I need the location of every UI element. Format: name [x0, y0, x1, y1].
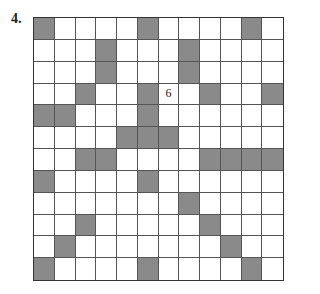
- grid-cell[interactable]: [138, 149, 159, 171]
- grid-cell[interactable]: [242, 236, 263, 258]
- grid-cell[interactable]: [159, 236, 180, 258]
- grid-cell[interactable]: [96, 18, 117, 40]
- grid-cell[interactable]: [96, 258, 117, 280]
- grid-cell[interactable]: [34, 149, 55, 171]
- grid-cell[interactable]: [262, 258, 283, 280]
- grid-cell[interactable]: [200, 62, 221, 84]
- grid-cell[interactable]: 6: [159, 84, 180, 106]
- grid-cell[interactable]: [55, 18, 76, 40]
- grid-cell[interactable]: [242, 84, 263, 106]
- grid-cell[interactable]: [221, 127, 242, 149]
- grid-cell[interactable]: [138, 193, 159, 215]
- grid-cell[interactable]: [76, 62, 97, 84]
- grid-cell[interactable]: [159, 40, 180, 62]
- grid-cell[interactable]: [55, 40, 76, 62]
- grid-cell[interactable]: [55, 171, 76, 193]
- grid-cell[interactable]: [34, 215, 55, 237]
- grid-cell[interactable]: [76, 258, 97, 280]
- grid-cell[interactable]: [55, 258, 76, 280]
- grid-cell[interactable]: [96, 171, 117, 193]
- grid-cell[interactable]: [221, 215, 242, 237]
- grid-cell[interactable]: [200, 127, 221, 149]
- grid-cell[interactable]: [221, 40, 242, 62]
- grid-cell[interactable]: [76, 193, 97, 215]
- grid-cell[interactable]: [262, 105, 283, 127]
- grid-cell[interactable]: [242, 215, 263, 237]
- grid-cell[interactable]: [200, 105, 221, 127]
- grid-cell[interactable]: [55, 149, 76, 171]
- grid-cell[interactable]: [76, 171, 97, 193]
- grid-cell[interactable]: [55, 127, 76, 149]
- grid-cell[interactable]: [179, 258, 200, 280]
- grid-cell[interactable]: [117, 149, 138, 171]
- grid-cell[interactable]: [76, 18, 97, 40]
- grid-cell[interactable]: [159, 62, 180, 84]
- grid-cell[interactable]: [34, 127, 55, 149]
- grid-cell[interactable]: [179, 18, 200, 40]
- grid-cell[interactable]: [159, 171, 180, 193]
- grid-cell[interactable]: [96, 193, 117, 215]
- grid-cell[interactable]: [262, 18, 283, 40]
- grid-cell[interactable]: [200, 40, 221, 62]
- grid-cell[interactable]: [117, 84, 138, 106]
- grid-cell[interactable]: [76, 236, 97, 258]
- grid-cell[interactable]: [96, 215, 117, 237]
- grid-cell[interactable]: [200, 171, 221, 193]
- grid-cell[interactable]: [179, 127, 200, 149]
- grid-cell[interactable]: [179, 171, 200, 193]
- grid-cell[interactable]: [96, 127, 117, 149]
- grid-cell[interactable]: [200, 236, 221, 258]
- grid-cell[interactable]: [262, 193, 283, 215]
- grid-cell[interactable]: [117, 105, 138, 127]
- grid-cell[interactable]: [242, 105, 263, 127]
- grid-cell[interactable]: [117, 193, 138, 215]
- grid-cell[interactable]: [159, 193, 180, 215]
- grid-cell[interactable]: [117, 62, 138, 84]
- grid-cell[interactable]: [221, 171, 242, 193]
- grid-cell[interactable]: [34, 62, 55, 84]
- grid-cell[interactable]: [179, 149, 200, 171]
- grid-cell[interactable]: [221, 18, 242, 40]
- grid-cell[interactable]: [179, 105, 200, 127]
- grid-cell[interactable]: [34, 40, 55, 62]
- grid-cell[interactable]: [242, 193, 263, 215]
- grid-cell[interactable]: [55, 62, 76, 84]
- grid-cell[interactable]: [76, 40, 97, 62]
- grid-cell[interactable]: [117, 18, 138, 40]
- grid-cell[interactable]: [221, 258, 242, 280]
- grid-cell[interactable]: [34, 193, 55, 215]
- grid-cell[interactable]: [96, 105, 117, 127]
- grid-cell[interactable]: [159, 215, 180, 237]
- grid-cell[interactable]: [179, 215, 200, 237]
- grid-cell[interactable]: [242, 40, 263, 62]
- grid-cell[interactable]: [200, 18, 221, 40]
- grid-cell[interactable]: [200, 258, 221, 280]
- grid-cell[interactable]: [262, 171, 283, 193]
- grid-cell[interactable]: [159, 149, 180, 171]
- grid-cell[interactable]: [221, 193, 242, 215]
- grid-cell[interactable]: [96, 236, 117, 258]
- grid-cell[interactable]: [96, 84, 117, 106]
- grid-cell[interactable]: [221, 84, 242, 106]
- grid-cell[interactable]: [138, 62, 159, 84]
- grid-cell[interactable]: [159, 105, 180, 127]
- grid-cell[interactable]: [262, 62, 283, 84]
- grid-cell[interactable]: [242, 171, 263, 193]
- grid-cell[interactable]: [55, 193, 76, 215]
- grid-cell[interactable]: [159, 18, 180, 40]
- grid-cell[interactable]: [55, 215, 76, 237]
- grid-cell[interactable]: [34, 236, 55, 258]
- grid-cell[interactable]: [262, 40, 283, 62]
- grid-cell[interactable]: [34, 84, 55, 106]
- grid-cell[interactable]: [242, 127, 263, 149]
- grid-cell[interactable]: [138, 40, 159, 62]
- grid-cell[interactable]: [242, 62, 263, 84]
- grid-cell[interactable]: [179, 236, 200, 258]
- grid-cell[interactable]: [117, 258, 138, 280]
- grid-cell[interactable]: [159, 258, 180, 280]
- grid-cell[interactable]: [117, 236, 138, 258]
- grid-cell[interactable]: [76, 105, 97, 127]
- grid-cell[interactable]: [76, 127, 97, 149]
- grid-cell[interactable]: [117, 40, 138, 62]
- grid-cell[interactable]: [262, 127, 283, 149]
